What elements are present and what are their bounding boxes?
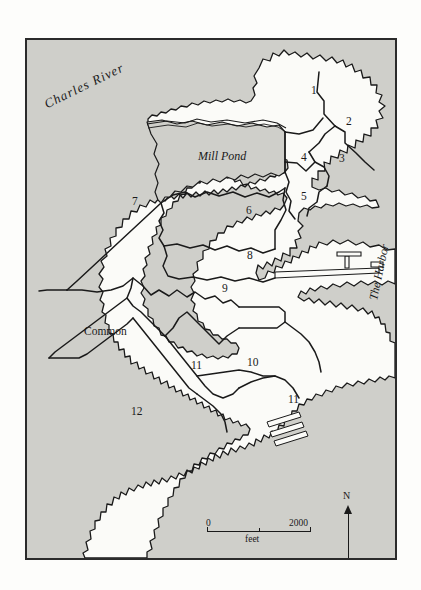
ward-label-7: 7 xyxy=(132,196,138,208)
ward-label-11-west: 11 xyxy=(191,360,202,372)
scale-tick-left xyxy=(207,527,208,532)
ward-label-5: 5 xyxy=(301,191,307,203)
ward-label-4: 4 xyxy=(301,152,307,164)
scale-tick-right xyxy=(310,527,311,532)
scale-max-label: 2000 xyxy=(289,518,308,528)
ward-label-3: 3 xyxy=(339,153,345,165)
ward-label-8: 8 xyxy=(247,250,253,262)
ward-label-9: 9 xyxy=(222,283,228,295)
scale-units-label: feet xyxy=(245,534,259,544)
ward-label-6: 6 xyxy=(246,205,252,217)
ward-label-12: 12 xyxy=(131,406,143,418)
ward-label-10: 10 xyxy=(247,357,259,369)
scale-bar: 0 2000 feet xyxy=(207,521,311,551)
ward-label-11-southeast: 11 xyxy=(288,394,299,406)
mill-pond-label: Mill Pond xyxy=(198,150,246,162)
scale-tick-mid xyxy=(259,528,260,532)
ward-label-2: 2 xyxy=(346,116,352,128)
map-page: Charles River Mill Pond The Harbor Commo… xyxy=(0,0,421,590)
ward-label-1: 1 xyxy=(311,85,317,97)
map-frame: Charles River Mill Pond The Harbor Commo… xyxy=(25,38,397,560)
north-arrow: N xyxy=(340,491,358,560)
map-graphic xyxy=(27,40,395,558)
north-arrow-shaft xyxy=(348,510,349,560)
north-letter-label: N xyxy=(343,490,350,501)
common-label: Common xyxy=(84,326,127,338)
